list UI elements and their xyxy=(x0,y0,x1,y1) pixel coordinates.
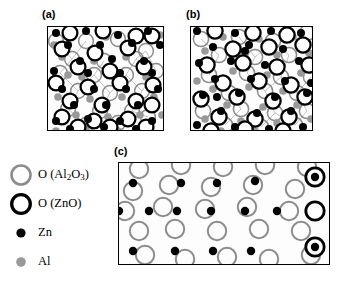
legend-label-o-zno: O (ZnO) xyxy=(36,196,81,211)
panel-c-atomic-structure xyxy=(118,162,330,265)
panel-label-b: (b) xyxy=(186,8,200,20)
gray-dot-icon xyxy=(6,249,36,275)
legend-label-o-al2o3: O (Al2O3) xyxy=(36,167,89,182)
legend-item-o-al2o3: O (Al2O3) xyxy=(6,160,114,189)
legend: O (Al2O3) O (ZnO) Zn xyxy=(6,160,114,276)
legend-label-zn: Zn xyxy=(36,225,52,240)
panel-a-atomic-structure xyxy=(47,26,164,131)
panel-b-atomic-structure xyxy=(190,26,313,131)
legend-item-o-zno: O (ZnO) xyxy=(6,189,114,218)
legend-item-al: Al xyxy=(6,247,114,276)
legend-item-zn: Zn xyxy=(6,218,114,247)
gray-ring-icon xyxy=(6,162,36,188)
panel-label-c: (c) xyxy=(114,145,127,157)
panel-b-lattice-svg xyxy=(190,26,313,131)
black-ring-icon xyxy=(6,191,36,217)
black-dot-icon xyxy=(6,220,36,246)
legend-label-al: Al xyxy=(36,254,51,269)
figure-root: (a) (b) (c) O (Al2O3) O xyxy=(0,0,345,282)
panel-a-lattice-svg xyxy=(47,26,164,131)
panel-c-lattice-svg xyxy=(118,162,330,265)
panel-label-a: (a) xyxy=(42,8,55,20)
